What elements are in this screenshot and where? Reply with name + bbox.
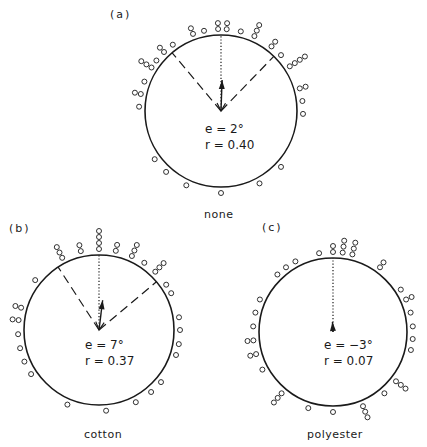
data-point: [410, 337, 415, 342]
data-point: [403, 386, 408, 391]
panel-a-ci-line-1: [172, 53, 221, 111]
panel-a-stats: e = 2°r = 0.40: [205, 121, 254, 153]
data-point: [54, 245, 59, 250]
data-point: [188, 26, 193, 31]
data-point: [191, 31, 196, 36]
data-point: [22, 359, 27, 364]
data-point: [13, 304, 18, 309]
panel-b-ci-line-2: [99, 282, 156, 330]
arrowhead-icon: [330, 322, 336, 331]
data-point: [57, 250, 62, 255]
arrowhead-icon: [99, 300, 105, 309]
data-point: [159, 380, 164, 385]
data-point: [275, 395, 280, 400]
data-point: [361, 404, 366, 409]
data-point: [378, 265, 383, 270]
data-point: [251, 324, 256, 329]
data-point: [77, 243, 82, 248]
data-point: [132, 248, 137, 253]
data-point: [162, 50, 167, 55]
panel-a-r-value: r = 0.40: [205, 137, 254, 153]
data-point: [394, 379, 399, 384]
data-point: [154, 58, 159, 63]
data-point: [184, 183, 189, 188]
data-point: [137, 104, 142, 109]
data-point: [381, 260, 386, 265]
data-point: [340, 250, 345, 255]
data-point: [19, 305, 24, 310]
panel-c-stats: e = −3°r = 0.07: [324, 337, 373, 369]
data-point: [350, 252, 355, 257]
data-point: [144, 62, 149, 67]
data-point: [29, 372, 34, 377]
data-point: [302, 54, 307, 59]
data-point: [113, 248, 118, 253]
data-point: [216, 27, 221, 32]
plot-canvas: [0, 0, 427, 447]
data-point: [245, 339, 250, 344]
data-point: [331, 250, 336, 255]
data-point: [97, 241, 102, 246]
arrowhead-icon: [219, 80, 225, 89]
data-point: [306, 406, 311, 411]
data-point: [97, 229, 102, 234]
data-point: [404, 297, 409, 302]
data-point: [78, 249, 83, 254]
data-point: [398, 287, 403, 292]
data-point: [292, 61, 297, 66]
data-point: [115, 242, 120, 247]
data-point: [410, 324, 415, 329]
data-point: [10, 317, 15, 322]
data-point: [178, 328, 183, 333]
data-point: [353, 240, 358, 245]
panel-label-c: (c): [262, 221, 283, 234]
data-point: [254, 352, 259, 357]
data-point: [219, 191, 224, 196]
panel-b-r-value: r = 0.37: [85, 353, 134, 369]
panel-label-a: (a): [110, 8, 131, 21]
data-point: [134, 243, 139, 248]
data-point: [16, 318, 21, 323]
data-point: [271, 400, 276, 405]
data-point: [303, 84, 308, 89]
data-point: [254, 28, 259, 33]
data-point: [279, 164, 284, 169]
data-point: [301, 111, 306, 116]
data-point: [224, 27, 229, 32]
data-point: [284, 265, 289, 270]
data-point: [225, 21, 230, 26]
data-point: [132, 90, 137, 95]
data-point: [153, 269, 158, 274]
panel-b-caption: cotton: [84, 428, 122, 441]
data-point: [408, 348, 413, 353]
circular-scatter-figure: (a) e = 2°r = 0.40 none (b) e = 7°r = 0.…: [0, 0, 427, 447]
data-point: [293, 259, 298, 264]
data-point: [279, 391, 284, 396]
data-point: [139, 59, 144, 64]
panel-b-ci-line-1: [58, 267, 99, 330]
panel-c-r-value: r = 0.07: [324, 353, 373, 369]
data-point: [33, 278, 38, 283]
data-point: [142, 260, 147, 265]
data-point: [409, 295, 414, 300]
data-point: [341, 244, 346, 249]
panel-a-e-value: e = 2°: [205, 121, 254, 137]
data-point: [18, 346, 23, 351]
data-point: [331, 244, 336, 249]
data-point: [215, 21, 220, 26]
data-point: [279, 53, 284, 58]
data-point: [257, 297, 262, 302]
data-point: [297, 57, 302, 62]
data-point: [202, 28, 207, 33]
panel-label-b: (b): [9, 222, 31, 235]
data-point: [273, 39, 278, 44]
panel-c-caption: polyester: [307, 428, 363, 441]
data-point: [60, 255, 65, 260]
data-point: [365, 415, 370, 420]
data-point: [300, 99, 305, 104]
data-point: [398, 382, 403, 387]
data-point: [351, 246, 356, 251]
data-point: [161, 261, 166, 266]
data-point: [275, 272, 280, 277]
data-point: [152, 157, 157, 162]
